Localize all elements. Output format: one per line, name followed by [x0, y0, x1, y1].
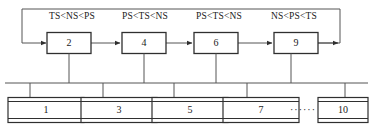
leaf-node-1: 1 — [44, 105, 49, 115]
pipeline-diagram: TS<NS<PS PS<TS<NS PS<TS<NS NS<PS<TS 2 4 … — [0, 0, 373, 127]
leaf-node-10: 10 — [338, 105, 348, 115]
leaf-node-3: 3 — [117, 105, 122, 115]
stage-node-4: 4 — [142, 38, 147, 48]
bus-to-leaf-connectors — [30, 83, 345, 98]
stage-node-9: 9 — [294, 38, 299, 48]
leaf-ellipsis: ······ — [290, 105, 316, 115]
stage-node-6: 6 — [214, 38, 219, 48]
leaf-node-5: 5 — [188, 105, 193, 115]
condition-label-3: PS<TS<NS — [196, 12, 242, 22]
condition-label-2: PS<TS<NS — [122, 12, 168, 22]
stage-node-2: 2 — [67, 38, 72, 48]
condition-label-1: TS<NS<PS — [49, 12, 95, 22]
condition-label-4: NS<PS<TS — [271, 12, 317, 22]
leaf-node-7: 7 — [259, 105, 264, 115]
stage-to-bus-connectors — [69, 54, 291, 84]
